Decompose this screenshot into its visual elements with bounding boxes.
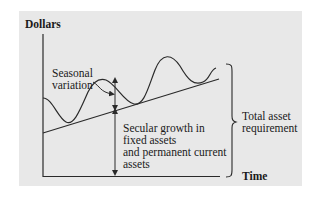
secular-label-line1: Secular growth in [123,122,205,134]
seasonal-label-line2: variation [52,79,93,91]
secular-label-line3: and permanent current [123,146,226,158]
seasonal-pointer-arrow [93,82,112,94]
y-axis-label: Dollars [25,18,61,30]
total-label-line1: Total asset [242,110,291,122]
secular-label-line4: assets [123,158,150,170]
x-axis-label: Time [242,170,267,182]
seasonal-label-line1: Seasonal [52,67,93,79]
total-label-line2: requirement [242,122,298,134]
total-brace [226,64,236,177]
secular-label-line2: fixed assets [123,134,176,146]
